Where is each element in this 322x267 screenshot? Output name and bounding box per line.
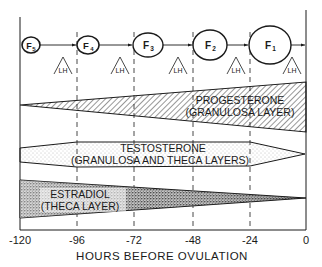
tick-label: -48 — [185, 234, 201, 246]
lh-marker-1: LH — [54, 57, 72, 74]
tick-label: -96 — [69, 234, 85, 246]
svg-text:1: 1 — [272, 45, 276, 52]
lh-marker-3: LH — [169, 57, 187, 74]
follicle-f1: F 1 — [249, 26, 291, 64]
follicle-f5: F 5 — [22, 37, 40, 53]
ovulation-diagram: PROGESTERONE (GRANULOSA LAYER) TESTOSTER… — [0, 0, 322, 267]
lh-marker-5: LH — [283, 57, 301, 74]
progesterone-source-label: (GRANULOSA LAYER) — [186, 106, 295, 118]
estradiol-label: ESTRADIOL — [50, 188, 110, 200]
svg-text:LH: LH — [59, 67, 68, 74]
svg-text:F: F — [83, 40, 89, 51]
svg-text:LH: LH — [174, 67, 183, 74]
follicle-f4: F 4 — [77, 36, 99, 54]
progesterone-band: PROGESTERONE (GRANULOSA LAYER) — [20, 82, 306, 132]
tick-label: -72 — [126, 234, 142, 246]
tick-label: -120 — [9, 234, 31, 246]
svg-text:2: 2 — [212, 45, 216, 52]
svg-text:3: 3 — [150, 45, 154, 52]
svg-text:F: F — [143, 40, 149, 51]
testosterone-label: TESTOSTERONE — [120, 142, 206, 154]
x-axis-ticks: -120 -96 -72 -48 -24 0 — [9, 234, 309, 246]
tick-label: 0 — [303, 234, 309, 246]
tick-label: -24 — [242, 234, 258, 246]
svg-text:LH: LH — [288, 67, 297, 74]
estradiol-source-label: (THECA LAYER) — [41, 200, 120, 212]
lh-marker-4: LH — [227, 57, 245, 74]
svg-text:LH: LH — [232, 67, 241, 74]
testosterone-band: TESTOSTERONE (GRANULOSA AND THECA LAYERS… — [20, 142, 305, 167]
follicle-f3: F 3 — [133, 33, 163, 57]
estradiol-band: ESTRADIOL (THECA LAYER) — [20, 180, 306, 218]
follicle-f2: F 2 — [193, 30, 227, 60]
svg-text:LH: LH — [116, 67, 125, 74]
x-axis-title: HOURS BEFORE OVULATION — [76, 250, 248, 262]
svg-text:F: F — [205, 40, 211, 51]
progesterone-label: PROGESTERONE — [196, 94, 285, 106]
lh-marker-2: LH — [111, 57, 129, 74]
svg-text:F: F — [265, 40, 271, 51]
testosterone-source-label: (GRANULOSA AND THECA LAYERS) — [71, 154, 249, 166]
